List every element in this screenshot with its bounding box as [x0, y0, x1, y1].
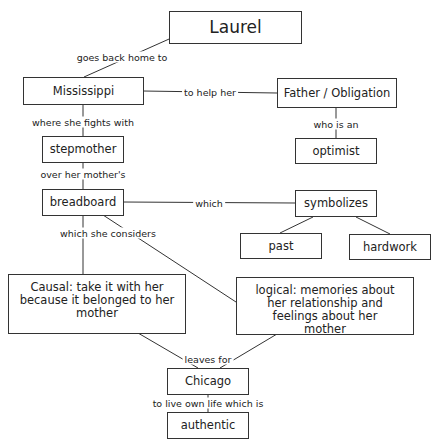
node-laurel: Laurel	[169, 11, 302, 44]
link-label-considers: which she considers	[58, 228, 158, 239]
link-label-which: which	[193, 198, 225, 209]
node-hardwork: hardwork	[349, 234, 431, 260]
node-symbolizes: symbolizes	[295, 190, 377, 217]
node-past: past	[240, 233, 322, 259]
node-logical: logical: memories about her relationship…	[236, 277, 414, 335]
node-chicago: Chicago	[167, 368, 249, 395]
link-label-to-help: to help her	[182, 87, 238, 98]
node-father-obligation: Father / Obligation	[277, 78, 397, 108]
link-label-leaves: leaves for	[183, 354, 234, 365]
node-causal: Causal: take it with her because it belo…	[8, 274, 186, 334]
node-optimist: optimist	[295, 138, 377, 164]
node-mississippi: Mississippi	[23, 77, 144, 105]
link-label-who-is: who is an	[311, 119, 360, 130]
link-label-goes-back: goes back home to	[75, 52, 170, 63]
link-label-over: over her mother's	[38, 169, 127, 180]
link-label-fights: where she fights with	[30, 117, 136, 128]
node-stepmother: stepmother	[42, 136, 124, 163]
node-authentic: authentic	[167, 412, 249, 439]
node-breadboard: breadboard	[42, 189, 124, 216]
link-label-live-own: to live own life which is	[151, 398, 266, 409]
